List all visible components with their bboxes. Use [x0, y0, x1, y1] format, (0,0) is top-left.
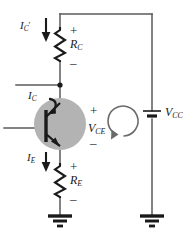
- polarity-rc-minus: –: [70, 56, 77, 69]
- schematic-canvas: [0, 0, 183, 237]
- resistor-rc-symbol: [55, 27, 65, 62]
- label-vcc-sub: CC: [172, 111, 183, 120]
- label-re-sub: E: [77, 179, 82, 188]
- label-vcc: VCC: [165, 106, 183, 118]
- battery-vcc: [143, 111, 161, 116]
- label-re: RE: [70, 174, 82, 186]
- ground-symbol-left: [48, 216, 72, 226]
- ground-symbol-right: [140, 216, 164, 226]
- circuit-diagram: IC′ + RC – IC + VCE – VCC IE + RE –: [0, 0, 183, 237]
- current-arrow-ic-prime: [42, 18, 51, 42]
- polarity-re-minus: –: [70, 192, 77, 205]
- label-rc: RC: [70, 38, 83, 50]
- label-rc-sub: C: [77, 43, 82, 52]
- label-ie: IE: [27, 152, 35, 163]
- label-ic-prime: IC′: [20, 20, 30, 31]
- label-vce: VCE: [88, 122, 105, 134]
- label-ic-prime-mark: ′: [29, 20, 31, 30]
- junction-node-collector: [57, 82, 62, 87]
- label-ic-prime-sub: C: [24, 25, 29, 33]
- current-arrow-ie: [42, 152, 51, 172]
- label-ie-sub: E: [31, 157, 35, 165]
- kvl-loop-arrow: [108, 106, 138, 139]
- polarity-rc-plus: +: [70, 24, 77, 37]
- polarity-vce-minus: –: [90, 136, 97, 149]
- label-ic: IC: [28, 90, 37, 101]
- label-ic-sub: C: [32, 95, 37, 103]
- polarity-re-plus: +: [70, 160, 77, 173]
- resistor-re-symbol: [55, 163, 65, 198]
- transistor-halo: [34, 98, 86, 150]
- polarity-vce-plus: +: [90, 104, 97, 117]
